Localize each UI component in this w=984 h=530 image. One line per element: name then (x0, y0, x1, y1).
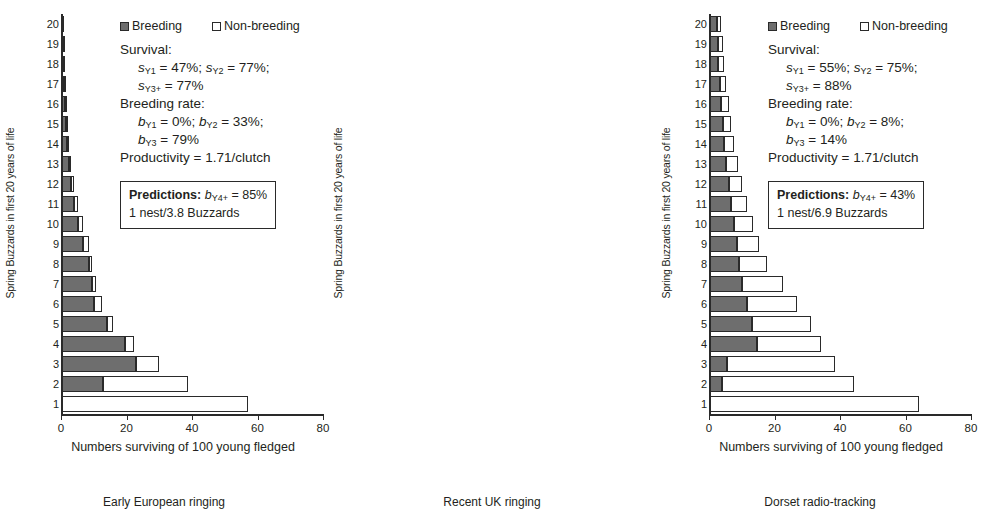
y-tick-label: 16 (38, 99, 59, 110)
breeding-segment (61, 316, 107, 332)
bar-stack (61, 354, 323, 374)
nonbreeding-swatch-icon (212, 22, 221, 31)
panel-dorset-radio-tracking: Spring Buzzards in first 20 years of lif… (656, 0, 984, 530)
y-tick-label: 6 (38, 299, 59, 310)
legend-nonbreeding: Non-breeding (212, 18, 300, 35)
y-tick-label: 12 (38, 179, 59, 190)
bar-row: 7 (38, 274, 323, 294)
y-axis-title: Spring Buzzards in first 20 years of lif… (2, 0, 18, 425)
survival-line-1: sY1 = 47%; sY2 = 77%; (138, 59, 325, 77)
y-tick-label: 1 (38, 399, 59, 410)
bar-row: 8 (38, 254, 323, 274)
buzzard-survival-figure: Spring Buzzards in first 20 years of lif… (0, 0, 984, 530)
bar-row: 3 (38, 354, 323, 374)
y-tick-label: 10 (38, 219, 59, 230)
y-tick-label: 2 (38, 379, 59, 390)
y-tick-label: 4 (38, 339, 59, 350)
legend-breeding-label: Breeding (132, 18, 182, 35)
predictions-line-2: 1 nest/3.8 Buzzards (129, 205, 267, 222)
y-tick-label: 17 (38, 79, 59, 90)
x-tick-label: 40 (186, 422, 199, 434)
y-tick-label: 15 (38, 119, 59, 130)
bar-stack (61, 334, 323, 354)
bar-row: 9 (38, 234, 323, 254)
legend: Breeding Non-breeding (120, 18, 325, 35)
bar-stack (61, 394, 323, 414)
breeding-segment (61, 216, 78, 232)
bar-stack (61, 234, 323, 254)
bar-row: 6 (38, 294, 323, 314)
productivity-line: Productivity = 1.71/clutch (120, 149, 325, 167)
breeding-segment (61, 256, 89, 272)
y-tick-label: 3 (38, 359, 59, 370)
bar-row: 1 (38, 394, 323, 414)
y-tick-label: 19 (38, 39, 59, 50)
nonbreeding-segment (63, 36, 65, 52)
nonbreeding-segment (63, 56, 65, 72)
breeding-segment (61, 276, 92, 292)
x-tick (323, 414, 324, 420)
breeding-segment (61, 336, 125, 352)
nonbreeding-segment (103, 376, 188, 392)
panel-caption-1: Early European ringing (0, 495, 328, 509)
breeding-swatch-icon (120, 22, 129, 31)
panel-caption-2: Recent UK ringing (328, 495, 656, 509)
nonbreeding-segment (69, 156, 71, 172)
y-tick-label: 5 (38, 319, 59, 330)
y-axis-line (61, 14, 63, 414)
x-tick (127, 414, 128, 420)
nonbreeding-segment (61, 396, 248, 412)
nonbreeding-segment (83, 236, 89, 252)
y-tick-label: 20 (38, 19, 59, 30)
nonbreeding-segment (107, 316, 114, 332)
bar-row: 4 (38, 334, 323, 354)
y-tick-label: 8 (38, 259, 59, 270)
nonbreeding-segment (78, 216, 83, 232)
y-tick-label: 13 (38, 159, 59, 170)
breeding-segment (61, 356, 136, 372)
x-tick (192, 414, 193, 420)
breeding-segment (61, 236, 83, 252)
survival-heading: Survival: (120, 41, 325, 59)
y-tick-label: 18 (38, 59, 59, 70)
y-tick-label: 9 (38, 239, 59, 250)
nonbreeding-segment (125, 336, 134, 352)
y-tick-label: 14 (38, 139, 59, 150)
panel-early-european-ringing: Spring Buzzards in first 20 years of lif… (0, 0, 328, 530)
bar-row: 5 (38, 314, 323, 334)
x-tick-label: 60 (251, 422, 264, 434)
nonbreeding-segment (62, 16, 64, 32)
nonbreeding-segment (92, 276, 96, 292)
breeding-segment (61, 196, 74, 212)
nonbreeding-segment (66, 116, 68, 132)
nonbreeding-segment (71, 176, 74, 192)
bar-stack (61, 254, 323, 274)
breeding-rate-heading: Breeding rate: (120, 95, 325, 113)
y-axis-title: Spring Buzzards in first 20 years of lif… (658, 0, 674, 425)
legend-breeding: Breeding (120, 18, 182, 35)
nonbreeding-segment (94, 296, 103, 312)
breeding-line-2: bY3 = 79% (138, 131, 325, 149)
predictions-box: Predictions: bY4+ = 85% 1 nest/3.8 Buzza… (120, 181, 276, 229)
x-tick-label: 0 (58, 422, 64, 434)
nonbreeding-segment (74, 196, 78, 212)
bar-row: 2 (38, 374, 323, 394)
panel-caption-3: Dorset radio-tracking (656, 495, 984, 509)
legend-nonbreeding-label: Non-breeding (224, 18, 300, 35)
y-tick-label: 7 (38, 279, 59, 290)
nonbreeding-segment (136, 356, 158, 372)
bar-stack (61, 374, 323, 394)
survival-line-2: sY3+ = 77% (138, 77, 325, 95)
x-tick-label: 20 (120, 422, 133, 434)
bar-stack (61, 294, 323, 314)
breeding-segment (61, 376, 103, 392)
x-tick (61, 414, 62, 420)
panel-recent-uk-ringing: Spring Buzzards in first 20 years of lif… (328, 0, 656, 530)
nonbreeding-segment (89, 256, 92, 272)
bar-stack (61, 314, 323, 334)
y-axis-title: Spring Buzzards in first 20 years of lif… (330, 0, 346, 425)
nonbreeding-segment (65, 96, 67, 112)
stats-block-panel-1: Breeding Non-breeding Survival: sY1 = 47… (120, 18, 325, 229)
nonbreeding-segment (64, 76, 66, 92)
predictions-line-1: Predictions: bY4+ = 85% (129, 187, 267, 204)
